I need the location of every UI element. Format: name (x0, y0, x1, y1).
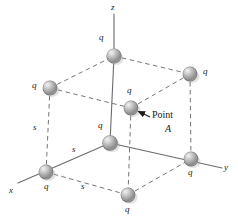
edge-bottomfront-bottomright (128, 159, 191, 195)
edge-vertical-center (110, 56, 114, 143)
charge-label-bottom-left: q (44, 182, 49, 191)
charge-label-bottom-right: q (188, 168, 193, 177)
charge-label-top-front: q (127, 86, 132, 95)
edge-bottomleft-bottomfront (46, 172, 128, 195)
edge-length-label-diagonal: s (72, 145, 76, 154)
charge-sphere-top-back-left (43, 81, 60, 97)
charge-sphere-bottom-left (39, 165, 56, 181)
charge-label-top-back-right: q (203, 67, 208, 76)
charge-sphere-top-front (124, 101, 141, 117)
edge-topbackleft-topfront (50, 88, 131, 108)
edge-vertical-left (46, 88, 50, 172)
physics-figure-cube-of-charges: z x y q q q q q q q q s s s Point A (0, 0, 238, 224)
axis-label-z: z (111, 3, 115, 12)
charge-label-top-back-top: q (99, 33, 104, 42)
edge-length-label-bottom: s (81, 182, 85, 191)
charge-label-bottom-front: q (125, 205, 130, 214)
edge-topbackleft-topback (50, 56, 114, 88)
axis-label-x: x (9, 186, 13, 195)
point-a-leader-arrow (139, 112, 151, 118)
charge-sphere-origin (102, 135, 120, 152)
charge-sphere-bottom-right (184, 152, 201, 168)
axis-label-y: y (224, 163, 228, 172)
edge-length-label-vertical: s (33, 123, 37, 132)
axis-y (110, 143, 222, 168)
charge-label-origin: q (98, 121, 103, 130)
cube-diagram-svg (0, 0, 238, 224)
edge-topfront-topbackright (131, 74, 190, 108)
point-a-label-line1: Point (152, 110, 173, 120)
edge-topback-topbackright (114, 56, 190, 74)
edge-vertical-right (190, 74, 191, 159)
edge-vertical-front (128, 108, 131, 195)
charge-sphere-top-back-right (183, 67, 200, 83)
charge-spheres (39, 48, 201, 204)
charge-sphere-bottom-front (121, 188, 138, 204)
charge-label-top-back-left: q (32, 81, 37, 90)
point-a-label-line2: A (165, 124, 171, 134)
charge-sphere-top-back-top (106, 48, 123, 65)
